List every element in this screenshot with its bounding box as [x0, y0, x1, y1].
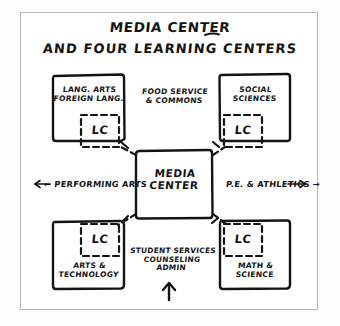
annotation-performing-arts: ← PERFORMING ARTS: [43, 180, 147, 190]
annotation-pe-athletics: P.E. & ATHLETICS →: [225, 180, 320, 190]
learning-center-label-top-right: LC: [223, 124, 262, 138]
connector-center-to-top-right: [213, 147, 225, 155]
up-arrow-icon: [163, 283, 175, 300]
connector-stub-top-right: [213, 142, 219, 147]
diagram-title-secondary: AND FOUR LEARNING CENTERS: [0, 41, 340, 56]
annotation-student-services: STUDENT SERVICES COUNSELING ADMIN: [125, 247, 220, 273]
quadrant-label-top-right: SOCIAL SCIENCES: [219, 86, 291, 104]
quadrant-label-bottom-left: ARTS & TECHNOLOGY: [52, 262, 126, 280]
learning-center-label-top-left: LC: [80, 124, 119, 138]
annotation-food-service-commons: FOOD SERVICE & COMMONS: [131, 88, 218, 106]
diagram-canvas: MEDIA CENTER AND FOUR LEARNING CENTERS L…: [0, 0, 340, 326]
diagram-title-primary: MEDIA CENTER: [0, 20, 340, 36]
learning-center-label-bottom-left: LC: [80, 233, 119, 247]
connector-stub-bottom-right: [212, 218, 218, 223]
quadrant-label-bottom-right: MATH & SCIENCE: [219, 262, 291, 280]
quadrant-label-top-left: LANG. ARTS FOREIGN LANG.: [52, 86, 126, 104]
learning-center-label-bottom-right: LC: [223, 233, 262, 247]
